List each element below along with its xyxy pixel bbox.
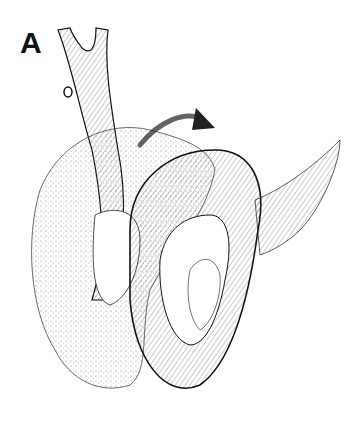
- figure-canvas: A: [0, 0, 363, 422]
- vessel-stump: [64, 87, 72, 97]
- mesentery: [255, 140, 340, 255]
- bowel-loop: [130, 150, 261, 388]
- anatomical-illustration: [0, 0, 363, 422]
